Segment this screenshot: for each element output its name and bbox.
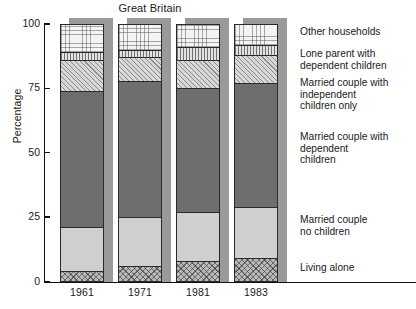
y-tick-label-75: 75 [6,82,40,93]
legend-label-line: Living alone [300,262,416,274]
bar-segment-mcic-1981[interactable] [177,61,219,89]
bar-segment-mcic-1983[interactable] [235,56,277,84]
bar-segment-alone-1981[interactable] [177,262,219,282]
bar-segment-lone-1961[interactable] [61,53,103,61]
x-axis-label-1983: 1983 [234,286,278,298]
bar-segment-other-1961[interactable] [61,25,103,53]
chart-container: Great Britain Percentage 0255075100 1961… [0,0,416,309]
bar-1981[interactable] [176,24,220,282]
legend-label-line: dependent children [300,60,416,72]
y-tick-label-25: 25 [6,211,40,222]
legend-label-line: Married couple with [300,77,416,89]
x-axis-line [44,282,416,283]
bar-segment-mcnc-1981[interactable] [177,213,219,262]
y-tick-25 [44,216,50,217]
bar-segment-lone-1983[interactable] [235,46,277,56]
y-tick-100 [44,23,50,24]
legend-label-line: Married couple with [300,131,416,143]
x-axis-label-1981: 1981 [176,286,220,298]
bar-1961[interactable] [60,24,104,282]
bar-segment-other-1981[interactable] [177,25,219,48]
y-tick-50 [44,152,50,153]
legend-label-alone: Living alone [300,262,416,274]
bar-segment-mcic-1971[interactable] [119,58,161,81]
y-tick-75 [44,88,50,89]
legend-label-other: Other households [300,26,416,38]
legend-label-line: Married couple [300,214,416,226]
bar-segment-alone-1961[interactable] [61,272,103,281]
legend-label-line: no children [300,226,416,238]
bar-segment-mcdc-1981[interactable] [177,89,219,213]
y-tick-label-0: 0 [6,276,40,287]
bar-segment-mcnc-1983[interactable] [235,208,277,260]
bar-segment-lone-1981[interactable] [177,48,219,61]
legend-label-line: children [300,154,416,166]
y-tick-label-100: 100 [6,18,40,29]
bar-segment-other-1983[interactable] [235,25,277,46]
bar-1983[interactable] [234,24,278,282]
bar-segment-mcnc-1971[interactable] [119,218,161,267]
bar-segment-other-1971[interactable] [119,25,161,51]
bar-1971[interactable] [118,24,162,282]
bar-segment-mcnc-1961[interactable] [61,228,103,272]
legend-label-line: independent [300,89,416,101]
chart-title: Great Britain [0,2,300,14]
legend-label-mcdc: Married couple withdependentchildren [300,131,416,166]
y-tick-0 [44,281,50,282]
legend-label-mcic: Married couple withindependentchildren o… [300,77,416,112]
bar-segment-alone-1971[interactable] [119,267,161,281]
bar-segment-mcdc-1961[interactable] [61,92,103,228]
legend-label-lone: Lone parent withdependent children [300,48,416,71]
legend-label-line: Other households [300,26,416,38]
x-axis-label-1961: 1961 [60,286,104,298]
bar-segment-lone-1971[interactable] [119,51,161,59]
bar-segment-mcdc-1971[interactable] [119,82,161,218]
y-tick-label-50: 50 [6,147,40,158]
x-axis-label-1971: 1971 [118,286,162,298]
bar-segment-alone-1983[interactable] [235,259,277,281]
legend-label-line: dependent [300,143,416,155]
bar-segment-mcdc-1983[interactable] [235,84,277,208]
legend-label-line: children only [300,100,416,112]
bar-segment-mcic-1961[interactable] [61,61,103,92]
legend-label-line: Lone parent with [300,48,416,60]
legend-label-mcnc: Married coupleno children [300,214,416,237]
